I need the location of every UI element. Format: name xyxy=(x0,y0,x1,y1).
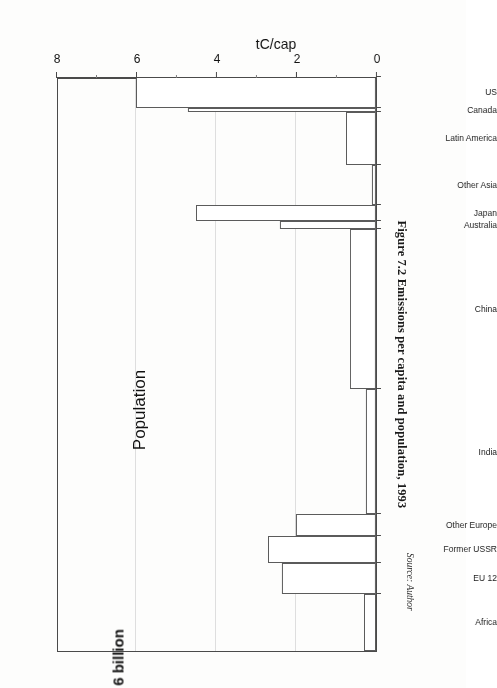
bar-india[interactable] xyxy=(366,389,376,514)
value-tick xyxy=(96,75,97,78)
bar-australia[interactable] xyxy=(280,221,376,228)
value-tick xyxy=(56,72,57,78)
category-tick xyxy=(376,388,381,389)
category-tick xyxy=(376,535,381,536)
value-tick-label: 8 xyxy=(42,52,72,66)
category-tick xyxy=(376,593,381,594)
value-tick xyxy=(216,72,217,78)
figure-source-caption: Source: Author xyxy=(405,553,415,673)
value-tick-label: 4 xyxy=(202,52,232,66)
bar-other-europe[interactable] xyxy=(296,514,376,536)
value-tick xyxy=(336,75,337,78)
category-tick xyxy=(376,204,381,205)
bar-china[interactable] xyxy=(350,229,376,389)
bar-former-ussr[interactable] xyxy=(268,536,376,562)
bar-canada[interactable] xyxy=(188,108,376,112)
category-label-other-asia: Other Asia xyxy=(377,179,497,191)
category-label-latin-america: Latin America xyxy=(377,132,497,144)
value-tick-label: 0 xyxy=(362,52,392,66)
value-tick xyxy=(176,75,177,78)
value-axis: 02468 xyxy=(57,77,377,78)
page-title: Figure 7.2 Emissions per capita and popu… xyxy=(395,221,410,541)
category-label-india: India xyxy=(377,446,497,458)
chart-plot-area: AfricaEU 12Former USSROther EuropeIndiaC… xyxy=(57,78,377,652)
category-tick xyxy=(376,164,381,165)
category-label-africa: Africa xyxy=(377,616,497,628)
gridline xyxy=(215,79,216,651)
bar-eu-12[interactable] xyxy=(282,563,376,594)
category-label-australia: Australia xyxy=(377,219,497,231)
category-tick xyxy=(376,562,381,563)
category-label-china: China xyxy=(377,303,497,315)
value-tick xyxy=(136,72,137,78)
value-tick xyxy=(256,75,257,78)
category-tick xyxy=(376,513,381,514)
population-total-annotation: 6 billion xyxy=(110,598,127,688)
bar-other-asia[interactable] xyxy=(372,165,376,205)
bar-us[interactable] xyxy=(136,77,376,108)
value-tick-label: 6 xyxy=(122,52,152,66)
value-tick xyxy=(296,72,297,78)
category-label-canada: Canada xyxy=(377,104,497,116)
category-label-japan: Japan xyxy=(377,207,497,219)
category-label-other-europe: Other Europe xyxy=(377,519,497,531)
bar-africa[interactable] xyxy=(364,594,376,651)
category-label-eu-12: EU 12 xyxy=(377,572,497,584)
bar-japan[interactable] xyxy=(196,205,376,221)
value-tick xyxy=(376,72,377,78)
category-label-us: US xyxy=(377,86,497,98)
bar-latin-america[interactable] xyxy=(346,112,376,165)
value-axis-title: tC/cap xyxy=(216,36,336,52)
category-axis-title: Population xyxy=(130,320,150,500)
category-label-former-ussr: Former USSR xyxy=(377,543,497,555)
value-tick-label: 2 xyxy=(282,52,312,66)
